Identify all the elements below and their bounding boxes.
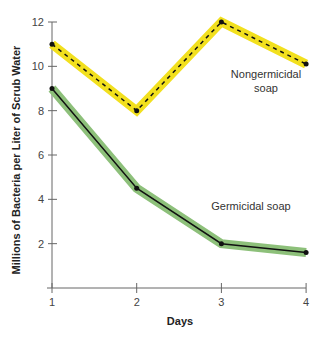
- y-tick-label: 6: [38, 149, 44, 161]
- series-nongermicidal: [50, 20, 309, 114]
- y-ticks: 24681012: [32, 16, 57, 250]
- y-tick-label: 4: [38, 193, 44, 205]
- series-line: [52, 89, 306, 253]
- y-tick-label: 8: [38, 105, 44, 117]
- x-tick-label: 2: [134, 296, 140, 308]
- x-tick-label: 1: [49, 296, 55, 308]
- data-point: [134, 186, 139, 191]
- chart: 24681012 1234 Nongermicidal soap Germici…: [0, 0, 322, 338]
- line-chart: 24681012 1234 Nongermicidal soap Germici…: [0, 0, 322, 338]
- x-axis-title: Days: [167, 315, 193, 327]
- y-tick-label: 10: [32, 60, 44, 72]
- data-point: [50, 86, 55, 91]
- x-ticks: 1234: [49, 283, 309, 308]
- series-germicidal: [50, 86, 309, 255]
- data-point: [304, 62, 309, 67]
- data-point: [219, 20, 224, 25]
- y-axis-title: Millions of Bacteria per Liter of Scrub …: [10, 45, 22, 275]
- x-tick-label: 4: [303, 296, 309, 308]
- series-line: [52, 22, 306, 111]
- data-point: [304, 250, 309, 255]
- annotation-germicidal: Germicidal soap: [211, 200, 290, 212]
- x-tick-label: 3: [218, 296, 224, 308]
- y-tick-label: 2: [38, 238, 44, 250]
- series-lines: [50, 20, 309, 256]
- annotation-nongermicidal-line2: soap: [254, 82, 278, 94]
- data-point: [50, 42, 55, 47]
- series-band: [52, 89, 306, 253]
- data-point: [219, 241, 224, 246]
- annotation-nongermicidal-line1: Nongermicidal: [231, 68, 301, 80]
- y-tick-label: 12: [32, 16, 44, 28]
- data-point: [134, 108, 139, 113]
